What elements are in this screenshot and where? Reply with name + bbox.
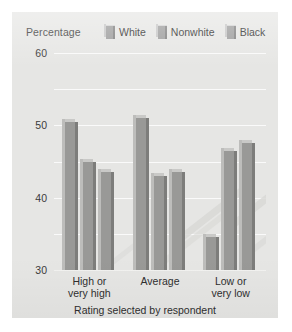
y-axis-tick-label: 40 — [35, 192, 47, 204]
bar-white[interactable] — [206, 237, 219, 270]
bar-group — [125, 53, 196, 270]
bar-black[interactable] — [242, 143, 255, 270]
bar-nonwhite[interactable] — [224, 151, 237, 270]
x-axis-category-line: very high — [54, 287, 125, 299]
legend-label: Black — [240, 26, 266, 38]
x-axis-category-line: High or — [54, 275, 125, 287]
y-axis-title: Percentage — [26, 26, 81, 38]
bar-group — [195, 53, 266, 270]
legend-item-white[interactable]: White — [106, 25, 146, 39]
y-axis-tick-label: 60 — [35, 47, 47, 59]
x-axis-category-line: Average — [125, 275, 196, 287]
legend-item-black[interactable]: Black — [227, 25, 266, 39]
legend-swatch-icon — [158, 25, 167, 39]
y-axis-tick-label: 50 — [35, 119, 47, 131]
bar-nonwhite[interactable] — [83, 162, 96, 271]
bar-white[interactable] — [136, 118, 149, 270]
gridline: 0 — [54, 270, 266, 271]
legend-label: White — [119, 26, 146, 38]
legend-item-nonwhite[interactable]: Nonwhite — [158, 25, 215, 39]
x-axis-category-line: Low or — [195, 275, 266, 287]
bar-black[interactable] — [172, 172, 185, 270]
x-axis-category-label: High orvery high — [54, 275, 125, 299]
bar-nonwhite[interactable] — [154, 176, 167, 270]
bar-groups — [54, 53, 266, 270]
legend-label: Nonwhite — [171, 26, 215, 38]
x-axis-category-line: very low — [195, 287, 266, 299]
x-axis-category-label: Average — [125, 275, 196, 299]
bar-black[interactable] — [101, 172, 114, 270]
chart-legend: White Nonwhite Black — [106, 25, 265, 39]
plot-area: 0102030405060 — [54, 53, 266, 270]
x-axis-category-label: Low orvery low — [195, 275, 266, 299]
y-axis-tick-label: 30 — [35, 264, 47, 276]
x-axis-title: Rating selected by respondent — [12, 304, 278, 316]
legend-swatch-icon — [227, 25, 236, 39]
bar-white[interactable] — [65, 122, 78, 270]
legend-swatch-icon — [106, 25, 115, 39]
category-labels: High orvery highAverageLow orvery low — [54, 275, 266, 299]
bar-group — [54, 53, 125, 270]
chart-figure: Percentage White Nonwhite Black 01020304… — [12, 12, 278, 318]
